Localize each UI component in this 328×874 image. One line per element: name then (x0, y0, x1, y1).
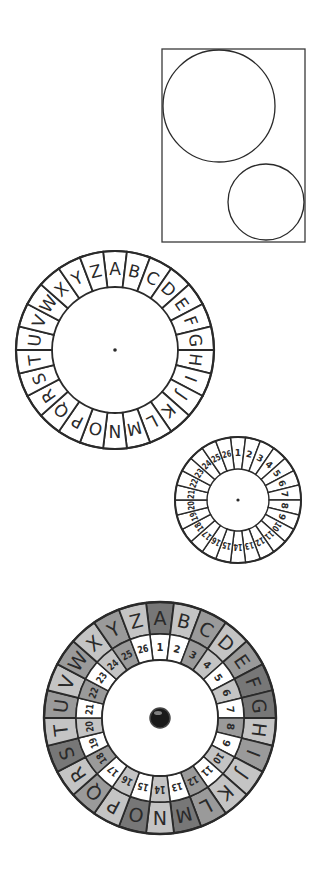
layout-guide (162, 49, 305, 242)
segment-label: G (247, 697, 271, 714)
center-dot (113, 348, 117, 352)
segment-label: 14 (234, 542, 243, 552)
segment-label: A (154, 607, 167, 629)
guide-small-circle (228, 164, 304, 240)
segment-label: 21 (83, 703, 95, 715)
guide-large-circle (163, 50, 275, 162)
segment-label: U (49, 698, 73, 714)
segment-label: 1 (157, 642, 164, 653)
segment-label: 1 (235, 448, 241, 458)
segment-label: 8 (225, 722, 237, 730)
cipher-wheel-diagram: ABCDEFGHIJKLMNOPQRSTUVWXYZ 1234567891011… (0, 0, 328, 874)
segment-label: N (109, 421, 122, 441)
segment-label: 20 (186, 501, 197, 511)
segment-label: H (247, 722, 271, 739)
segment-label: N (153, 807, 167, 829)
segment-label: 21 (186, 489, 197, 499)
center-dot (236, 498, 239, 501)
segment-label: 8 (279, 502, 290, 509)
number-wheel: 1234567891011121314151617181920212223242… (175, 437, 301, 563)
segment-label: A (109, 259, 121, 279)
assembled-cipher-wheel: ABCDEFGHIJKLMNOPQRSTUVWXYZ12345678910111… (44, 602, 276, 834)
segment-label: 7 (279, 491, 290, 498)
segment-label: G (185, 332, 206, 348)
segment-label: U (24, 333, 45, 348)
segment-label: 7 (225, 705, 237, 713)
segment-label: 20 (83, 720, 95, 732)
guide-rectangle (162, 49, 305, 242)
segment-label: H (185, 352, 206, 367)
letter-wheel: ABCDEFGHIJKLMNOPQRSTUVWXYZ (16, 251, 214, 449)
segment-label: 14 (154, 784, 165, 795)
pivot-pin-icon (150, 708, 170, 728)
